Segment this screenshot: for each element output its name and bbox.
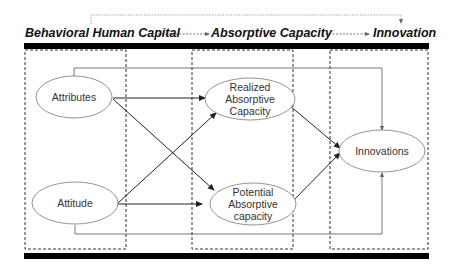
label-potential-line2: Absorptive bbox=[210, 198, 296, 210]
diagram-canvas bbox=[0, 0, 452, 269]
stage-label-absorptive: Absorptive Capacity bbox=[211, 26, 332, 40]
label-attributes: Attributes bbox=[36, 91, 112, 103]
label-realized: Realized Absorptive Capacity bbox=[205, 81, 295, 117]
label-realized-line1: Realized bbox=[205, 81, 295, 93]
top-black-bar bbox=[24, 43, 429, 49]
label-attitude: Attitude bbox=[32, 197, 118, 209]
label-realized-line2: Absorptive bbox=[205, 93, 295, 105]
stage-label-innovation: Innovation bbox=[373, 26, 436, 40]
label-potential: Potential Absorptive capacity bbox=[210, 186, 296, 222]
edge-attitude-realized bbox=[118, 113, 216, 203]
edge-potential-innovations bbox=[290, 153, 340, 204]
label-potential-line3: capacity bbox=[210, 210, 296, 222]
label-realized-line3: Capacity bbox=[205, 105, 295, 117]
label-potential-line1: Potential bbox=[210, 186, 296, 198]
edge-attributes-potential bbox=[113, 99, 214, 190]
top-bracket-connector bbox=[91, 15, 401, 24]
bottom-black-bar bbox=[24, 253, 429, 259]
stage-label-behavioral: Behavioral Human Capital bbox=[25, 26, 180, 40]
label-innovations: Innovations bbox=[339, 145, 425, 157]
